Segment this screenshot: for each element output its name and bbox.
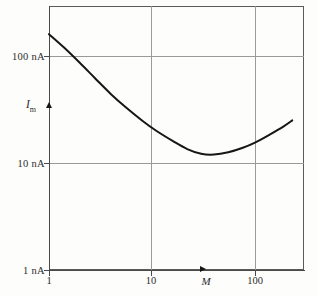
- tick-label-x-10: 10: [146, 275, 157, 286]
- x-axis-variable-label: M: [201, 275, 210, 287]
- plot-frame: [49, 6, 304, 270]
- y-axis-line: [49, 6, 50, 271]
- tick-label-y-10na: 10 nA: [18, 158, 45, 169]
- gridline-x-10: [151, 6, 152, 270]
- tick-label-x-100: 100: [247, 275, 263, 286]
- tick-label-y-1na: 1 nA: [23, 265, 45, 276]
- gridline-y-10na: [49, 163, 304, 164]
- gridline-x-100: [255, 6, 256, 270]
- tick-label-x-1: 1: [46, 275, 51, 286]
- y-axis-variable-label: Im: [26, 98, 36, 113]
- y-axis-variable-subscript: m: [30, 105, 36, 114]
- figure-canvas: 100 nA 10 nA 1 nA 1 10 100 Im M: [0, 0, 317, 296]
- tick-label-y-100na: 100 nA: [12, 51, 45, 62]
- y-axis-variable-marker-icon: [46, 102, 52, 108]
- x-axis-variable-marker-icon: [200, 266, 206, 272]
- gridline-y-100na: [49, 56, 304, 57]
- x-axis-line: [49, 270, 305, 271]
